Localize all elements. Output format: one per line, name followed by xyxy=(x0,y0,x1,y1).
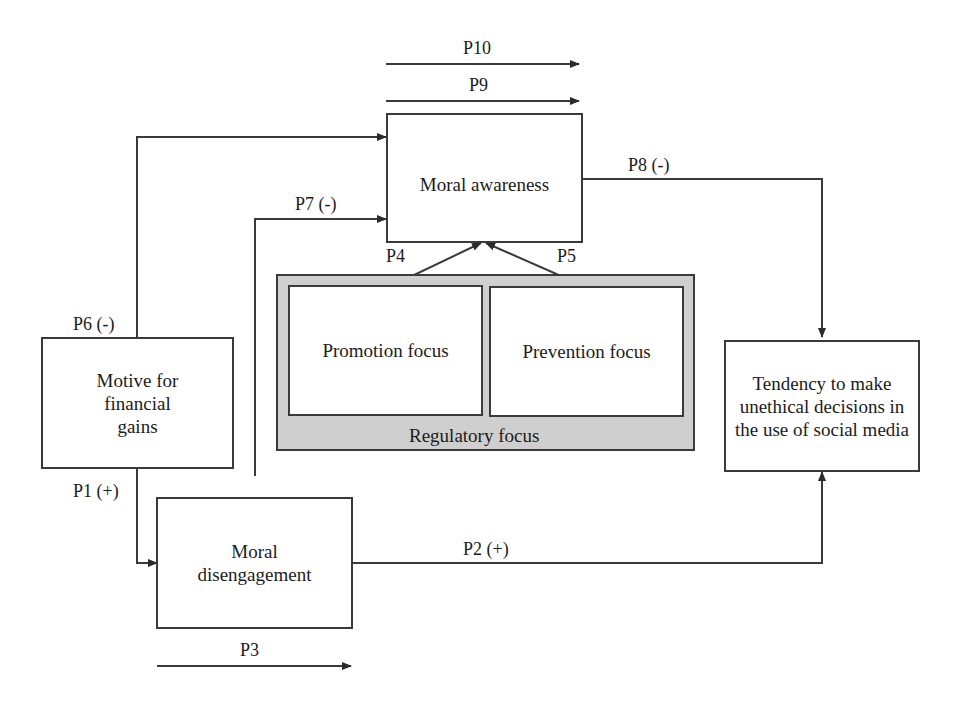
path-label-p2: P2 (+) xyxy=(463,539,509,559)
path-label-p9: P9 xyxy=(469,75,488,95)
node-promotion-focus: Promotion focus xyxy=(288,285,483,416)
node-tendency-unethical-decisions-label: Tendency to make unethical decisions in … xyxy=(734,372,910,441)
node-moral-awareness-label: Moral awareness xyxy=(420,173,549,196)
path-label-p4: P4 xyxy=(386,246,405,266)
path-label-p6: P6 (-) xyxy=(73,314,115,334)
node-motive-financial-gains: Motive for financial gains xyxy=(41,337,234,469)
group-regulatory-focus-label: Regulatory focus xyxy=(409,425,539,447)
node-tendency-unethical-decisions: Tendency to make unethical decisions in … xyxy=(724,340,920,472)
path-label-p1: P1 (+) xyxy=(73,481,119,501)
node-moral-awareness: Moral awareness xyxy=(386,113,583,243)
node-prevention-focus: Prevention focus xyxy=(489,286,684,417)
node-moral-disengagement-label: Moral disengagement xyxy=(198,540,312,586)
node-prevention-focus-label: Prevention focus xyxy=(522,340,650,363)
node-promotion-focus-label: Promotion focus xyxy=(322,339,448,362)
node-motive-financial-gains-label: Motive for financial gains xyxy=(83,369,192,438)
path-label-p8: P8 (-) xyxy=(628,155,670,175)
path-label-p3: P3 xyxy=(240,640,259,660)
node-moral-disengagement: Moral disengagement xyxy=(156,497,353,629)
path-label-p10: P10 xyxy=(463,38,491,58)
path-label-p7: P7 (-) xyxy=(295,194,337,214)
path-label-p5: P5 xyxy=(557,246,576,266)
